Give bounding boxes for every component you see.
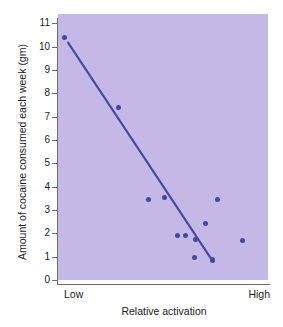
y-tick-mark: [52, 70, 58, 71]
data-point: [146, 197, 151, 202]
y-axis-title: Amount of cocaine consumed each week (gm…: [14, 7, 30, 297]
y-tick-mark: [52, 117, 58, 118]
data-point: [183, 233, 188, 238]
y-tick-mark: [52, 93, 58, 94]
y-tick-mark: [52, 257, 58, 258]
data-point: [62, 35, 67, 40]
y-tick-mark: [52, 280, 58, 281]
x-category-label-low: Low: [64, 288, 83, 300]
y-tick-mark: [52, 23, 58, 24]
y-tick-mark: [52, 163, 58, 164]
data-point: [162, 195, 167, 200]
y-tick-mark: [52, 140, 58, 141]
plot-panel: [58, 14, 268, 280]
y-tick-mark: [52, 233, 58, 234]
y-axis-line: [57, 18, 58, 284]
data-point: [175, 233, 180, 238]
y-tick-mark: [52, 187, 58, 188]
data-point: [203, 221, 208, 226]
x-axis-line: [57, 284, 270, 285]
y-tick-mark: [52, 47, 58, 48]
scatter-plot-figure: 01234567891011 LowHigh Amount of cocaine…: [0, 0, 283, 327]
x-category-label-high: High: [248, 288, 270, 300]
y-tick-mark: [52, 210, 58, 211]
x-axis-title: Relative activation: [58, 305, 270, 317]
